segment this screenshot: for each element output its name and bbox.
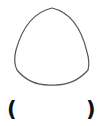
answer-blank[interactable] [20,96,82,122]
reuleaux-triangle-shape [0,0,103,92]
close-parenthesis: ) [86,96,96,122]
open-parenthesis: ( [7,96,17,122]
rounded-triangle-figure [0,0,103,92]
answer-bracket: ( ) [0,96,103,122]
